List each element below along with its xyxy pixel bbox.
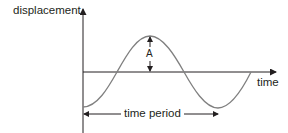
amplitude-label: A xyxy=(146,48,153,60)
y-axis-label: displacement xyxy=(13,5,81,17)
x-axis-label: time xyxy=(257,77,279,89)
period-label: time period xyxy=(121,108,184,120)
wave-diagram: displacement time A time period xyxy=(0,0,288,133)
